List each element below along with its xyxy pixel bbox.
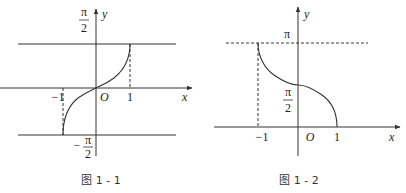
label-neg-pi-half-den: 2 bbox=[85, 147, 91, 161]
diagram-canvas: π 2 y x O 1 −1 − π 2 图 1 - 1 y π π 2 −1 … bbox=[0, 0, 406, 193]
label-one: 1 bbox=[127, 90, 133, 104]
label-neg-one: −1 bbox=[52, 90, 65, 104]
label-pi-half-den: 2 bbox=[285, 101, 291, 115]
figure-1-1: π 2 y x O 1 −1 − π 2 图 1 - 1 bbox=[0, 5, 192, 187]
label-x-axis: x bbox=[388, 130, 395, 144]
label-origin: O bbox=[100, 90, 109, 104]
figure-1-2: y π π 2 −1 O 1 x 图 1 - 2 bbox=[214, 7, 400, 187]
label-y-axis: y bbox=[303, 7, 310, 21]
caption-fig-1-1: 图 1 - 1 bbox=[81, 174, 120, 187]
label-pi: π bbox=[284, 27, 290, 41]
label-x-axis: x bbox=[181, 90, 188, 104]
label-one: 1 bbox=[334, 130, 340, 144]
label-pi-half-num: π bbox=[285, 85, 291, 99]
label-pi-half-den: 2 bbox=[81, 21, 87, 35]
label-neg-one: −1 bbox=[256, 130, 269, 144]
label-pi-half-num: π bbox=[81, 5, 87, 19]
label-neg-pi-half-num: π bbox=[85, 133, 91, 147]
caption-fig-1-2: 图 1 - 2 bbox=[279, 174, 318, 187]
label-y-axis: y bbox=[101, 7, 108, 21]
label-neg-sign: − bbox=[74, 138, 81, 152]
label-origin: O bbox=[306, 130, 315, 144]
